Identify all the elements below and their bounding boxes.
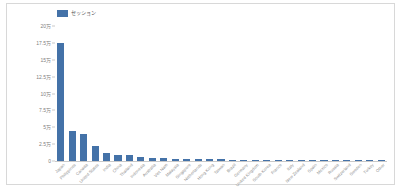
bar[interactable] xyxy=(332,160,339,161)
legend-label-sessions: セッション xyxy=(71,10,97,17)
bar[interactable] xyxy=(195,159,202,161)
bar[interactable] xyxy=(69,131,76,161)
bar-slot[interactable] xyxy=(135,26,146,161)
bar-slot[interactable] xyxy=(307,26,318,161)
bar-slot[interactable] xyxy=(273,26,284,161)
bar-slot[interactable] xyxy=(330,26,341,161)
bar[interactable] xyxy=(206,159,213,161)
bar-series-sessions[interactable] xyxy=(55,26,387,161)
bar[interactable] xyxy=(172,159,179,161)
x-axis-label: Other xyxy=(376,163,387,174)
bar-slot[interactable] xyxy=(238,26,249,161)
bar[interactable] xyxy=(137,157,144,161)
bar[interactable] xyxy=(252,160,259,161)
bar-slot[interactable] xyxy=(66,26,77,161)
bar[interactable] xyxy=(114,155,121,161)
legend-swatch-sessions xyxy=(57,10,68,17)
x-axis-label: Turkey xyxy=(363,163,375,175)
bar[interactable] xyxy=(229,160,236,161)
bar-slot[interactable] xyxy=(169,26,180,161)
bar[interactable] xyxy=(149,158,156,161)
bar-slot[interactable] xyxy=(376,26,387,161)
bar[interactable] xyxy=(366,160,373,161)
bar[interactable] xyxy=(126,155,133,161)
bar[interactable] xyxy=(80,134,87,161)
bar-slot[interactable] xyxy=(192,26,203,161)
bar-slot[interactable] xyxy=(318,26,329,161)
bar[interactable] xyxy=(183,159,190,161)
x-axis-label: Taiwan xyxy=(214,163,226,175)
x-axis-labels: JapanPhilippinesCanadaUnited StatesIndia… xyxy=(55,162,387,194)
bar[interactable] xyxy=(343,160,350,161)
bar[interactable] xyxy=(92,146,99,161)
bar[interactable] xyxy=(275,160,282,161)
bar-slot[interactable] xyxy=(101,26,112,161)
chart-legend[interactable]: セッション xyxy=(57,9,97,18)
bar[interactable] xyxy=(298,160,305,161)
bar-slot[interactable] xyxy=(55,26,66,161)
plot-area: 02.5万5万7.5万10万12.5万15万17.5万20万 xyxy=(55,26,387,161)
x-axis-label: Mexico xyxy=(316,163,329,176)
bar-slot[interactable] xyxy=(204,26,215,161)
chart-screenshot: セッション 02.5万5万7.5万10万12.5万15万17.5万20万 Jap… xyxy=(0,0,401,195)
bar-slot[interactable] xyxy=(112,26,123,161)
bar-slot[interactable] xyxy=(295,26,306,161)
bar-slot[interactable] xyxy=(364,26,375,161)
bar-slot[interactable] xyxy=(158,26,169,161)
bar-slot[interactable] xyxy=(124,26,135,161)
bar-slot[interactable] xyxy=(147,26,158,161)
bar-slot[interactable] xyxy=(341,26,352,161)
bar[interactable] xyxy=(320,160,327,161)
bar[interactable] xyxy=(217,159,224,161)
bar[interactable] xyxy=(57,43,64,161)
bar-slot[interactable] xyxy=(353,26,364,161)
bar[interactable] xyxy=(103,153,110,161)
bar-slot[interactable] xyxy=(181,26,192,161)
bar[interactable] xyxy=(240,160,247,161)
x-axis-label: India xyxy=(102,163,112,173)
x-axis-label: France xyxy=(271,163,283,175)
bar-slot[interactable] xyxy=(227,26,238,161)
bar[interactable] xyxy=(378,160,385,161)
bar-slot[interactable] xyxy=(78,26,89,161)
bar-slot[interactable] xyxy=(215,26,226,161)
bar[interactable] xyxy=(286,160,293,161)
bar[interactable] xyxy=(263,160,270,161)
bar-slot[interactable] xyxy=(284,26,295,161)
bar-slot[interactable] xyxy=(261,26,272,161)
bar[interactable] xyxy=(355,160,362,161)
bar-slot[interactable] xyxy=(89,26,100,161)
bar[interactable] xyxy=(309,160,316,161)
bar-slot[interactable] xyxy=(250,26,261,161)
bar[interactable] xyxy=(160,158,167,161)
